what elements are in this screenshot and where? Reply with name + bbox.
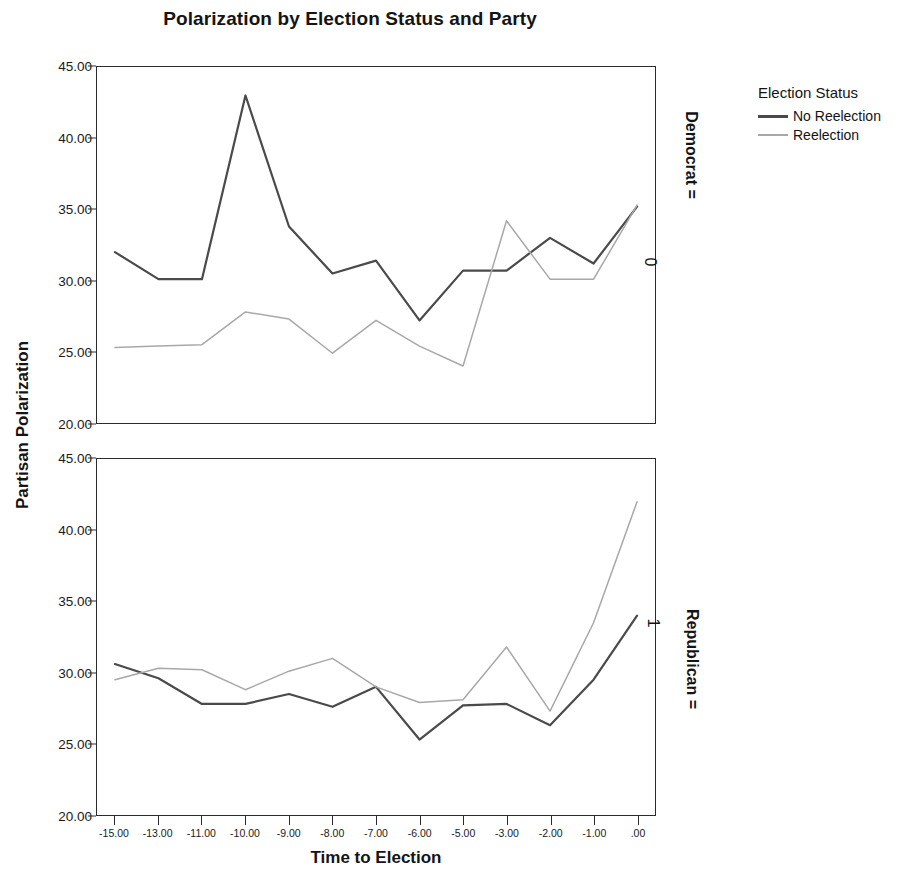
x-tick-label: -9.00 [277,827,301,839]
x-tick-label: -10.00 [230,827,260,839]
chart-root: Polarization by Election Status and Part… [0,0,910,878]
legend-title: Election Status [758,84,908,101]
panel-strip-label-republican: Republican = [683,574,701,744]
y-tick-label: 25.00 [4,345,92,360]
x-tick-label: -6.00 [408,827,432,839]
y-tick-label: 35.00 [4,594,92,609]
y-tick-mark [88,672,96,673]
legend-label-reelection: Reelection [793,127,859,143]
x-tick-mark [507,816,508,825]
x-tick-mark [289,816,290,825]
y-tick-label: 35.00 [4,202,92,217]
x-tick-label: -13.00 [143,827,173,839]
y-tick-mark [88,424,96,425]
y-tick-mark [88,601,96,602]
x-tick-mark [332,816,333,825]
y-tick-label: 45.00 [4,59,92,74]
x-axis-title: Time to Election [96,848,656,868]
panel-strip-value-republican: 1 [644,603,662,643]
x-tick-mark [638,816,639,825]
x-tick-label: -8.00 [320,827,344,839]
y-tick-label: 30.00 [4,273,92,288]
legend-line-swatch-no-reelection [758,115,788,118]
y-tick-label: 20.00 [4,417,92,432]
x-tick-mark [114,816,115,825]
legend-item-reelection[interactable]: Reelection [758,127,908,143]
data-line-no-reelection [115,95,637,320]
y-tick-label: 45.00 [4,451,92,466]
legend-item-no-reelection[interactable]: No Reelection [758,108,908,124]
x-tick-label: -1.00 [582,827,606,839]
x-tick-label: -5.00 [451,827,475,839]
plot-panel-republican [96,458,656,816]
data-line-reelection [115,205,637,366]
y-axis-ticks-top-panel: 20.0025.0030.0035.0040.0045.00 [0,66,92,424]
chart-title: Polarization by Election Status and Part… [0,8,700,30]
x-tick-mark [420,816,421,825]
y-axis-ticks-bottom-panel: 20.0025.0030.0035.0040.0045.00 [0,458,92,816]
y-tick-mark [88,66,96,67]
x-axis-ticks: -15.00-13.00-11.00-10.00-9.00-8.00-7.00-… [96,816,656,846]
y-tick-label: 25.00 [4,737,92,752]
x-tick-label: -15.00 [99,827,129,839]
x-tick-label: -7.00 [364,827,388,839]
x-tick-mark [463,816,464,825]
y-tick-mark [88,352,96,353]
x-tick-label: .00 [631,827,646,839]
legend: Election Status No Reelection Reelection [758,84,908,146]
x-tick-mark [158,816,159,825]
x-tick-mark [594,816,595,825]
legend-line-swatch-reelection [758,134,788,136]
x-tick-mark [245,816,246,825]
y-tick-label: 20.00 [4,809,92,824]
y-tick-label: 40.00 [4,522,92,537]
data-line-no-reelection [115,616,637,740]
x-tick-mark [551,816,552,825]
data-line-reelection [115,502,637,711]
x-tick-label: -3.00 [495,827,519,839]
y-tick-mark [88,280,96,281]
x-tick-label: -2.00 [539,827,563,839]
y-tick-mark [88,529,96,530]
y-tick-mark [88,744,96,745]
panel-strip-value-democrat: 0 [641,242,659,282]
y-tick-label: 40.00 [4,130,92,145]
y-tick-mark [88,816,96,817]
legend-label-no-reelection: No Reelection [793,108,881,124]
x-tick-label: -11.00 [187,827,216,839]
y-tick-mark [88,458,96,459]
panel-strip-label-democrat: Democrat = [682,75,700,235]
y-tick-mark [88,137,96,138]
x-tick-mark [376,816,377,825]
y-tick-label: 30.00 [4,665,92,680]
x-tick-mark [201,816,202,825]
plot-panel-democrat [96,66,656,424]
y-tick-mark [88,209,96,210]
